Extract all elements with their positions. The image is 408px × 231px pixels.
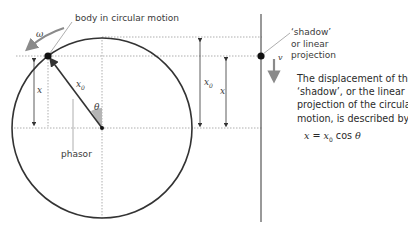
theta-label: θ	[94, 102, 99, 113]
x0-phasor-label: x0	[76, 79, 85, 93]
body-dot	[44, 52, 51, 59]
x-right-label: x	[220, 86, 225, 97]
x0-right-label: x0	[204, 77, 213, 91]
x-left-label: x	[37, 85, 42, 96]
body-label: body in circular motion	[75, 13, 179, 24]
shadow-label: ‘shadow’ or linear projection	[291, 27, 336, 62]
dotted-guides	[14, 37, 262, 220]
phasor-label: phasor	[61, 149, 92, 160]
equation: x = x0 cos θ	[304, 130, 361, 143]
phasor-arrow	[52, 61, 102, 128]
description-text: The displacement of the ‘shadow’, or the…	[297, 72, 407, 125]
omega-label: ω	[36, 29, 43, 40]
v-label: v	[278, 52, 283, 63]
phasor-diagram: body in circular motion ω x0 θ phasor x …	[0, 0, 408, 231]
center-dot	[100, 126, 104, 130]
